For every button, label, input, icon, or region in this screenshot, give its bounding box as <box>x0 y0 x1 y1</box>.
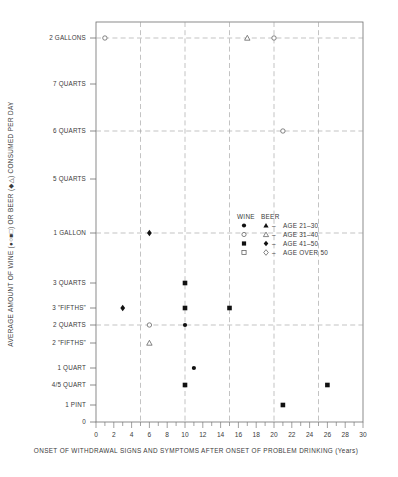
xtick-label-20: 20 <box>270 431 278 438</box>
legend-header-wine: WINE <box>237 213 255 220</box>
legend-dash-1: – <box>272 222 276 229</box>
data-point-filled-square-x15 <box>227 306 232 311</box>
data-point-open-circle-x20 <box>272 36 276 40</box>
legend-beer-open-diamond-icon <box>264 250 269 256</box>
xtick-label-12: 12 <box>199 431 207 438</box>
xtick-label-24: 24 <box>306 431 314 438</box>
xtick-label-14: 14 <box>217 431 225 438</box>
legend-wine-filled-square-icon <box>242 241 246 245</box>
ytick-label-1-quart: 1 QUART <box>57 364 86 372</box>
legend-header-beer: BEER <box>261 213 280 220</box>
ytick-label-7-quarts: 7 QUARTS <box>53 80 86 88</box>
ytick-label-1-gallon: 1 GALLON <box>54 229 87 236</box>
legend-label-age-31-40: AGE 31–40 <box>283 231 318 238</box>
y-axis-title: AVERAGE AMOUNT OF WINE (●○■□) OR BEER (◆… <box>7 101 15 347</box>
legend-row-age-31-40[interactable]: – AGE 31–40 <box>242 231 319 238</box>
data-point-filled-diamond-x6 <box>147 230 152 236</box>
legend-label-age-over-50: AGE OVER 50 <box>283 249 328 256</box>
legend-dash-4: – <box>272 249 276 256</box>
xtick-label-30: 30 <box>359 431 367 438</box>
xtick-label-0: 0 <box>94 431 98 438</box>
data-point-open-triangle-x6 <box>147 340 152 345</box>
data-point-filled-square-x26 <box>325 383 330 388</box>
legend-wine-filled-circle-icon <box>242 223 246 227</box>
legend-beer-filled-triangle-icon <box>263 223 268 228</box>
data-point-open-circle-x1 <box>103 36 107 40</box>
xtick-label-10: 10 <box>181 431 189 438</box>
xtick-label-16: 16 <box>235 431 243 438</box>
data-point-filled-square-x21 <box>281 403 286 408</box>
x-tick-labels: 0 2 4 6 8 10 12 14 16 18 20 22 24 26 28 … <box>94 431 367 438</box>
data-point-open-circle-x21 <box>281 129 285 133</box>
data-point-filled-square-x10 <box>183 383 188 388</box>
legend-label-age-41-50: AGE 41–50 <box>283 240 318 247</box>
xtick-label-18: 18 <box>253 431 261 438</box>
data-point-filled-circle-x11 <box>192 366 196 370</box>
ytick-label-6-quarts: 6 QUARTS <box>53 127 86 135</box>
ytick-label-3-fifths: 3 "FIFTHS" <box>52 304 86 311</box>
x-axis-title: ONSET OF WITHDRAWAL SIGNS AND SYMPTOMS A… <box>34 447 358 455</box>
ytick-label-5-quarts: 5 QUARTS <box>53 175 86 183</box>
xtick-label-4: 4 <box>130 431 134 438</box>
data-point-open-circle-x6 <box>147 323 151 327</box>
ytick-label-2-fifths: 2 "FIFTHS" <box>52 339 86 346</box>
legend-row-age-over-50[interactable]: – AGE OVER 50 <box>242 249 328 256</box>
xtick-label-6: 6 <box>148 431 152 438</box>
legend-wine-open-circle-icon <box>242 232 246 236</box>
x-tick-marks <box>96 422 363 428</box>
xtick-label-26: 26 <box>324 431 332 438</box>
ytick-label-4-5-quart: 4/5 QUART <box>52 381 86 389</box>
ytick-label-2-quarts: 2 QUARTS <box>53 321 86 329</box>
legend-wine-open-square-icon <box>242 250 246 254</box>
legend: WINE BEER – AGE 21–30 – AGE 31–40 – <box>237 213 328 256</box>
xtick-label-8: 8 <box>165 431 169 438</box>
data-point-filled-diamond-x3 <box>120 305 125 311</box>
data-point-filled-circle-x10 <box>183 323 187 327</box>
xtick-label-2: 2 <box>112 431 116 438</box>
data-point-filled-square-x10 <box>183 306 188 311</box>
ytick-label-zero: 0 <box>82 418 86 425</box>
legend-dash-3: – <box>272 240 276 247</box>
xtick-label-22: 22 <box>288 431 296 438</box>
legend-beer-filled-diamond-icon <box>264 241 269 247</box>
legend-row-age-21-30[interactable]: – AGE 21–30 <box>242 222 319 229</box>
legend-row-age-41-50[interactable]: – AGE 41–50 <box>242 240 319 247</box>
data-point-filled-square-x10 <box>183 281 188 286</box>
scatter-plot-figure: 2 GALLONS 7 QUARTS 6 QUARTS 5 QUARTS 1 G… <box>0 0 398 477</box>
y-tick-marks <box>90 38 96 422</box>
ytick-label-1-pint: 1 PINT <box>65 401 86 408</box>
ytick-label-3-quarts: 3 QUARTS <box>53 279 86 287</box>
xtick-label-28: 28 <box>342 431 350 438</box>
y-tick-labels: 2 GALLONS 7 QUARTS 6 QUARTS 5 QUARTS 1 G… <box>49 34 86 425</box>
legend-dash-2: – <box>272 231 276 238</box>
ytick-label-2-gallons: 2 GALLONS <box>49 34 86 41</box>
legend-label-age-21-30: AGE 21–30 <box>283 222 318 229</box>
plot-svg: 2 GALLONS 7 QUARTS 6 QUARTS 5 QUARTS 1 G… <box>0 0 398 477</box>
